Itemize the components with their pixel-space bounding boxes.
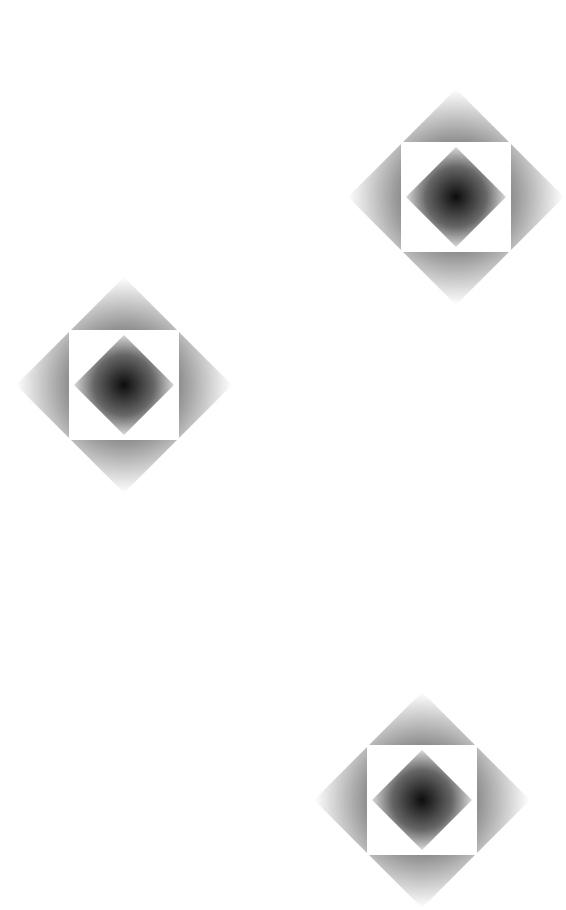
diamond-motif-motif-3 <box>312 690 532 910</box>
diamond-motif-motif-1 <box>346 87 566 307</box>
diamond-motif-motif-2 <box>14 275 234 495</box>
diamond-gradient-icon <box>14 275 234 495</box>
diamond-gradient-icon <box>346 87 566 307</box>
diamond-gradient-icon <box>312 690 532 910</box>
